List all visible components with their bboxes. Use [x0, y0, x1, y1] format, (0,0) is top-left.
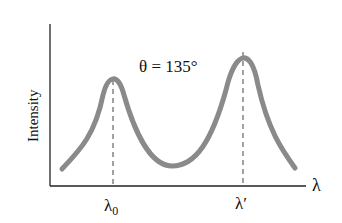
compton-chart: θ = 135° Intensity λ λ0 λ′ — [0, 0, 342, 223]
tick-label-lambda0-sub: 0 — [112, 204, 118, 218]
angle-annotation: θ = 135° — [139, 57, 198, 76]
tick-label-lambda0: λ0 — [104, 196, 118, 218]
y-axis-label: Intensity — [25, 89, 41, 142]
tick-label-lambda-prime: λ′ — [235, 194, 247, 213]
x-axis-label: λ — [312, 175, 321, 195]
